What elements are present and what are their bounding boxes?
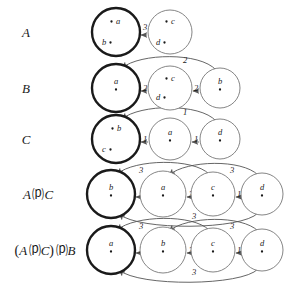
state-node[interactable]: cd (148, 10, 192, 54)
state-circle[interactable] (149, 118, 191, 160)
state-circle-accepting[interactable] (87, 170, 135, 218)
state-circle[interactable] (200, 68, 240, 108)
state-element-dot (109, 41, 111, 43)
edge-weight-label: 3 (229, 221, 234, 231)
edge-weight-label: 1 (183, 107, 187, 117)
state-element-dot (162, 194, 164, 196)
state-element-dot (169, 139, 171, 141)
state-node[interactable]: ab (92, 8, 140, 56)
state-node[interactable]: d (200, 119, 240, 159)
edge-straight: 2 (141, 83, 148, 93)
state-element-dot (261, 250, 263, 252)
state-circle[interactable] (241, 173, 283, 215)
nodes-layer: abcdacdbbcadbacdabcd (87, 8, 283, 274)
diagram-svg: 3222111131333231333 abcdacdbbcadbacdabcd… (0, 0, 291, 284)
state-element-dot (115, 88, 117, 90)
state-element-dot (109, 148, 111, 150)
edge-weight-label: 1 (143, 134, 147, 144)
state-element-label: a (116, 16, 120, 26)
state-element-dot (162, 250, 164, 252)
state-element-label: c (102, 144, 106, 154)
edge-weight-label: 3 (142, 22, 147, 32)
state-element-label: b (109, 182, 113, 192)
state-node[interactable]: a (92, 64, 140, 112)
state-node[interactable]: a (87, 226, 135, 274)
edge-straight: 2 (193, 83, 199, 93)
state-element-label: a (109, 238, 113, 248)
state-element-label: c (171, 16, 175, 26)
state-circle[interactable] (191, 228, 235, 272)
state-element-label: b (117, 123, 121, 133)
edge-arc-bottom: 3 (119, 267, 258, 282)
state-element-label: c (211, 182, 215, 192)
state-node[interactable]: a (140, 171, 186, 217)
state-node[interactable]: b (87, 170, 135, 218)
edge-weight-label: 3 (138, 221, 143, 231)
state-element-dot (165, 77, 167, 79)
edge-weight-label: 3 (138, 165, 143, 175)
edge-weight-label: 2 (183, 55, 188, 65)
state-element-label: c (211, 238, 215, 248)
state-node[interactable]: b (140, 227, 186, 273)
edge-straight: 1 (141, 134, 148, 144)
state-element-dot (261, 194, 263, 196)
state-element-label: a (168, 127, 172, 137)
row-label: A⒫C (22, 187, 53, 202)
edge-straight: 1 (236, 245, 241, 255)
state-circle[interactable] (148, 10, 192, 54)
state-circle[interactable] (200, 119, 240, 159)
row-label: C (22, 132, 31, 147)
edge-weight-label: 3 (229, 165, 234, 175)
edge-straight: 3 (141, 22, 147, 35)
edge-weight-label: 2 (143, 83, 148, 93)
state-element-dot (110, 20, 112, 22)
state-circle-accepting[interactable] (92, 64, 140, 112)
state-element-label: b (161, 238, 165, 248)
state-node[interactable]: cd (148, 66, 192, 110)
state-element-dot (163, 96, 165, 98)
row-label: A (21, 25, 30, 40)
state-circle[interactable] (148, 66, 192, 110)
state-element-dot (212, 250, 214, 252)
state-element-dot (163, 41, 165, 43)
row-label: (A⒫C)⒫B (15, 243, 76, 259)
state-element-dot (110, 194, 112, 196)
state-node[interactable]: b (200, 68, 240, 108)
state-circle-accepting[interactable] (87, 226, 135, 274)
state-circle[interactable] (140, 171, 186, 217)
edge-weight-label: 1 (237, 245, 241, 255)
row-labels-layer: ABCA⒫C(A⒫C)⒫B (15, 25, 76, 259)
state-circle[interactable] (140, 227, 186, 273)
state-element-label: b (218, 76, 222, 86)
state-node[interactable]: bc (92, 115, 140, 163)
edge-weight-label: 2 (194, 83, 199, 93)
state-element-dot (219, 88, 221, 90)
edge-weight-label: 1 (237, 189, 241, 199)
state-element-dot (212, 194, 214, 196)
state-element-dot (165, 20, 167, 22)
state-element-label: c (171, 73, 175, 83)
state-node[interactable]: c (191, 228, 235, 272)
edges-layer: 3222111131333231333 (117, 22, 258, 282)
edge-straight: 1 (192, 134, 199, 144)
state-element-label: a (161, 182, 165, 192)
state-element-dot (110, 250, 112, 252)
state-element-dot (219, 139, 221, 141)
state-element-label: a (114, 76, 118, 86)
edge-weight-label: 3 (191, 267, 196, 277)
state-element-label: b (102, 37, 106, 47)
edge-weight-label: 3 (191, 211, 196, 221)
state-circle[interactable] (191, 172, 235, 216)
state-element-dot (111, 127, 113, 129)
state-node[interactable]: d (241, 229, 283, 271)
row-label: B (22, 81, 30, 96)
transition-arrow (119, 269, 258, 282)
automata-diagram-canvas: 3222111131333231333 abcdacdbbcadbacdabcd… (0, 0, 291, 284)
state-node[interactable]: a (149, 118, 191, 160)
state-node[interactable]: d (241, 173, 283, 215)
state-circle[interactable] (241, 229, 283, 271)
edge-weight-label: 1 (194, 134, 198, 144)
state-node[interactable]: c (191, 172, 235, 216)
edge-straight: 1 (236, 189, 241, 199)
